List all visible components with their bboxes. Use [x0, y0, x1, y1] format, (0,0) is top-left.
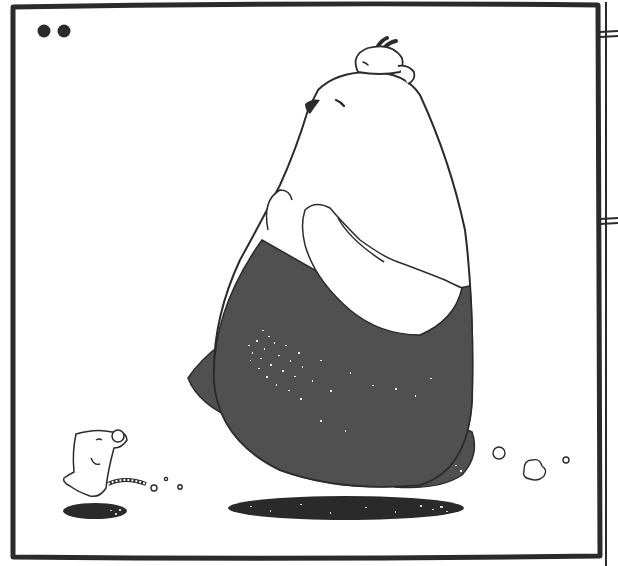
mouse-shadow [63, 503, 127, 519]
bear-shadow [228, 496, 464, 520]
adjacent-panel-edge [600, 2, 618, 566]
mouse-ear [112, 430, 124, 442]
rabbit-body [356, 46, 403, 74]
comic-panel-image [0, 0, 618, 566]
